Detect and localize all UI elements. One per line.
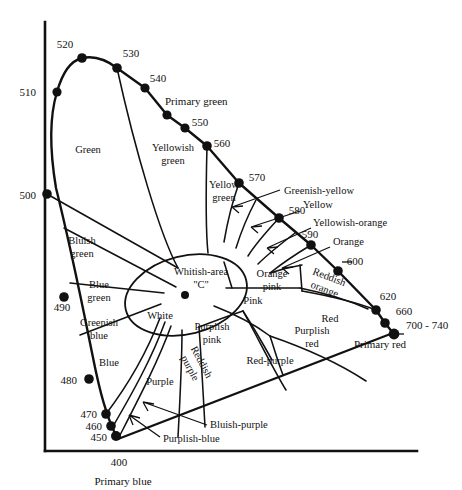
wavelength-label-570: 570 [249,171,266,183]
wavelength-label-530: 530 [123,47,140,59]
region-label-white: White [147,310,173,321]
wavelength-label-590: 590 [302,228,319,240]
region-label-whitish-area-line2: "C" [193,279,209,290]
locus-dot-540 [140,83,149,92]
wavelength-label-490: 490 [54,301,71,313]
region-label-yellow-green-line2: green [212,192,236,203]
locus-dot-460 [106,421,116,431]
wavelength-label-400: 400 [111,456,128,468]
cie-chromaticity-diagram: 520 530 540 550 560 570 580 590 600 620 … [0,0,462,490]
boundary-yellowishgreen-yellowgreen [206,146,208,253]
whitish-area-group [116,242,255,348]
region-label-yellowish-green-line1: Yellowish [152,142,195,153]
locus-dot-550 [180,123,189,132]
wavelength-label-660: 660 [396,305,413,317]
locus-dot-510 [52,87,61,96]
primary-green-label: Primary green [165,95,228,107]
locus-dot-500 [42,189,52,199]
region-label-red: Red [322,313,340,324]
boundary-bluegreen-greenishblue [70,283,164,293]
boundary-purplishblue-bluishpurple [112,322,165,428]
locus-dots-group [42,53,399,441]
locus-dot-450 [111,431,121,441]
locus-dot-620 [371,305,381,315]
region-label-blue: Blue [99,357,119,368]
region-label-blue-green-line1: Blue [89,279,109,290]
primary-red-label: Primary red [354,338,407,350]
region-label-greenish-yellow: Greenish-yellow [284,185,354,196]
region-label-red-purple: Red-purple [246,355,294,366]
region-label-purplish-pink-line1: Purplish [194,321,230,332]
locus-dot-520 [77,53,87,63]
region-label-yellow-green-line1: Yellow [209,179,239,190]
chromaticity-diagram-canvas: 520 530 540 550 560 570 580 590 600 620 … [0,0,462,490]
region-label-greenish-blue-line1: Greenish [80,317,119,328]
wavelength-label-500: 500 [20,189,37,201]
region-label-pink: Pink [243,295,263,306]
region-label-bluish-green-line2: green [70,248,94,259]
region-label-yellowish-orange: Yellowish-orange [313,217,388,228]
region-label-bluish-purple: Bluish-purple [210,419,268,430]
illuminant-c-point [181,291,189,299]
region-label-yellowish-green-line2: green [161,155,185,166]
locus-dot-660 [380,318,390,328]
wavelength-label-470: 470 [81,408,98,420]
wavelength-label-520: 520 [57,38,74,50]
region-label-greenish-blue-line2: blue [90,330,108,341]
region-label-blue-green-line2: green [87,292,111,303]
wavelength-label-550: 550 [192,116,209,128]
wavelength-label-560: 560 [214,137,231,149]
locus-dot-560 [202,141,212,151]
locus-dot-545 [162,110,171,119]
wavelength-label-510: 510 [20,86,37,98]
region-label-orange-pink-line1: Orange [257,268,288,279]
region-label-purplish-blue: Purplish-blue [163,433,220,444]
region-label-bluish-green-line1: Bluish [68,235,96,246]
wavelength-label-620: 620 [380,290,397,302]
locus-dot-480 [84,374,94,384]
region-label-purplish-red-line2: red [305,338,319,349]
pointer-bluish-purple [143,402,207,425]
wavelength-label-450: 450 [91,431,108,443]
primary-blue-label: Primary blue [94,475,151,487]
region-label-purplish-red-line1: Purplish [294,325,330,336]
locus-dot-590 [306,240,316,250]
locus-dot-530 [112,63,122,73]
boundary-purple-reddishpurple [178,330,182,437]
region-label-orange: Orange [333,236,364,247]
region-label-green: Green [75,144,101,155]
region-label-whitish-area-line1: Whitish-area [174,266,229,277]
region-label-yellow: Yellow [303,199,333,210]
wavelength-label-540: 540 [150,72,167,84]
boundary-orangepink-reddishorange [300,265,302,291]
wavelength-label-700-740: 700 - 740 [406,319,449,331]
locus-dot-470 [101,409,111,419]
region-boundaries-group [47,68,376,439]
region-label-purple: Purple [146,376,174,387]
boundary-redpurple-bottom [243,311,286,390]
region-label-reddish-purple-group: Reddish purple [177,344,215,386]
boundary-greenishyellow-yellow [236,200,256,248]
region-label-purplish-pink-line2: pink [203,334,222,345]
wavelength-label-600: 600 [347,255,364,267]
region-label-orange-pink-line2: pink [263,281,282,292]
wavelength-label-480: 480 [61,374,78,386]
